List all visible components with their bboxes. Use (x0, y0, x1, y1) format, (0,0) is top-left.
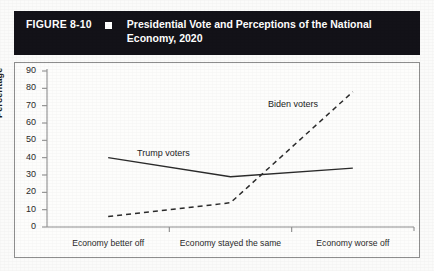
x-axis-category-label: Economy stayed the same (169, 238, 291, 248)
y-axis-tick-label: 80 (16, 82, 36, 92)
y-axis-title: Percentage (0, 67, 4, 118)
series-label-biden-voters: Biden voters (268, 99, 318, 109)
y-axis-tick-label: 0 (16, 221, 36, 231)
x-axis-category-label: Economy worse off (292, 238, 414, 248)
y-axis-tick-label: 30 (16, 169, 36, 179)
y-axis-tick-label: 90 (16, 65, 36, 75)
figure-page: FIGURE 8-10 Presidential Vote and Percep… (0, 0, 434, 271)
y-axis-tick-label: 70 (16, 100, 36, 110)
y-axis-tick-label: 60 (16, 117, 36, 127)
figure-title: Presidential Vote and Perceptions of the… (127, 18, 372, 45)
y-axis-tick-label: 50 (16, 134, 36, 144)
figure-number: FIGURE 8-10 (26, 18, 92, 31)
x-axis-category-label: Economy better off (47, 238, 169, 248)
figure-header-bar: FIGURE 8-10 Presidential Vote and Percep… (14, 11, 420, 55)
chart-frame (14, 62, 420, 258)
series-label-trump-voters: Trump voters (137, 148, 190, 158)
y-axis-tick-label: 20 (16, 186, 36, 196)
y-axis-tick-label: 40 (16, 152, 36, 162)
y-axis-tick-label: 10 (16, 204, 36, 214)
white-square-bullet-icon (105, 22, 112, 29)
